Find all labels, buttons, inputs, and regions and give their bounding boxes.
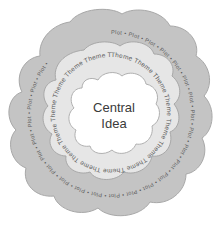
center-label-line2: Idea xyxy=(101,116,127,131)
concentric-cloud-diagram: Plot • Plot • Plot • Plot • Plot • Plot … xyxy=(0,0,222,225)
center-label-line1: Central xyxy=(93,100,135,115)
